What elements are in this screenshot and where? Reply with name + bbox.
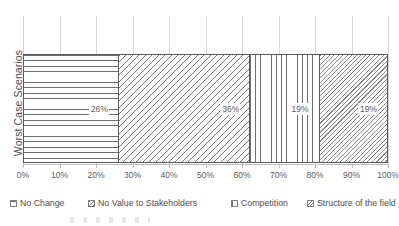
- x-axis-ticks: [23, 164, 388, 169]
- legend-item-2[interactable]: Competition: [231, 198, 288, 209]
- legend-item-0[interactable]: No Change: [10, 198, 65, 209]
- x-axis-tick: [206, 164, 207, 168]
- bar-segment-label: 36%: [220, 103, 240, 115]
- bar-segment-0: 26%: [23, 54, 118, 163]
- x-axis-tick-label: 20%: [87, 170, 104, 180]
- legend-item-3[interactable]: Structure of the field: [307, 198, 396, 209]
- legend-swatch-icon: [88, 200, 95, 207]
- bar-segment-label: 19%: [358, 103, 378, 115]
- bar-segment-2: 19%: [249, 54, 318, 163]
- scan-artifact: [70, 217, 150, 223]
- bar-segment-1: 36%: [118, 54, 249, 163]
- gridline: [388, 16, 389, 164]
- bar-segment-label: 19%: [290, 103, 310, 115]
- plot-area: 26%36%19%19%: [23, 16, 388, 164]
- x-axis-tick-label: 50%: [197, 170, 214, 180]
- x-axis-tick-labels: 0%10%20%30%40%50%60%70%80%90%100%: [23, 170, 388, 184]
- x-axis-tick-label: 90%: [343, 170, 360, 180]
- x-axis-tick-label: 10%: [51, 170, 68, 180]
- legend-swatch-icon: [231, 200, 238, 207]
- x-axis-tick: [96, 164, 97, 168]
- legend-label: No Value to Stakeholders: [98, 198, 197, 209]
- x-axis-tick: [388, 164, 389, 168]
- x-axis-tick: [169, 164, 170, 168]
- legend-swatch-icon: [307, 200, 314, 207]
- x-axis-tick-label: 30%: [124, 170, 141, 180]
- x-axis-tick: [242, 164, 243, 168]
- x-axis-tick: [315, 164, 316, 168]
- legend-swatch-icon: [10, 200, 17, 207]
- x-axis-tick-label: 70%: [270, 170, 287, 180]
- bar-segment-3: 19%: [319, 54, 388, 163]
- x-axis-tick: [352, 164, 353, 168]
- x-axis-tick: [279, 164, 280, 168]
- stacked-bar: 26%36%19%19%: [23, 54, 388, 163]
- legend-label: Structure of the field: [317, 198, 396, 209]
- legend-label: Competition: [241, 198, 288, 209]
- x-axis-tick-label: 80%: [306, 170, 323, 180]
- chart-legend: No ChangeNo Value to StakeholdersCompeti…: [10, 196, 392, 210]
- x-axis-tick: [60, 164, 61, 168]
- legend-label: No Change: [20, 198, 65, 209]
- x-axis-tick-label: 40%: [160, 170, 177, 180]
- x-axis-tick-label: 0%: [17, 170, 29, 180]
- legend-item-1[interactable]: No Value to Stakeholders: [88, 198, 197, 209]
- x-axis-tick-label: 100%: [377, 170, 399, 180]
- bar-segment-label: 26%: [89, 103, 109, 115]
- x-axis-tick-label: 60%: [233, 170, 250, 180]
- x-axis-tick: [133, 164, 134, 168]
- x-axis-tick: [23, 164, 24, 168]
